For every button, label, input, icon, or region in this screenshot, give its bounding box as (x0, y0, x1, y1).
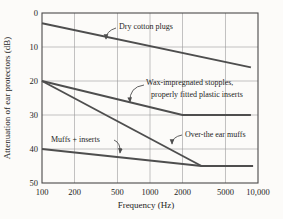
y-tick-label-20: 20 (30, 76, 39, 86)
x-tick-label-500: 500 (111, 187, 124, 197)
annotation-label-dry-cotton-plugs: Dry cotton plugs (119, 22, 173, 31)
x-tick-label-200: 200 (68, 187, 81, 197)
attenuation-vs-frequency-chart: 10020050010002000500010,00001020304050Fr… (0, 0, 283, 219)
x-tick-label-100: 100 (36, 187, 49, 197)
x-axis-title: Frequency (Hz) (118, 200, 175, 210)
y-tick-label-30: 30 (30, 110, 39, 120)
y-tick-label-0: 0 (34, 8, 38, 18)
annotation-label-wax-impregnated-stopples: properly fitted plastic inserts (151, 90, 243, 99)
x-tick-label-1000: 1000 (142, 187, 159, 197)
y-tick-label-10: 10 (30, 42, 39, 52)
x-tick-label-5000: 5000 (217, 187, 234, 197)
annotation-label-over-the-ear-muffs: Over-the ear muffs (185, 130, 246, 139)
annotation-label-wax-impregnated-stopples: Wax-impregnated stopples, (146, 78, 233, 87)
y-tick-label-50: 50 (30, 178, 39, 188)
y-axis-title: Attenuation of ear protectors (dB) (2, 37, 12, 159)
x-tick-label-2000: 2000 (174, 187, 191, 197)
figure-ear-protector-attenuation: 10020050010002000500010,00001020304050Fr… (0, 0, 283, 219)
x-tick-label-10000: 10,000 (246, 187, 269, 197)
y-tick-label-40: 40 (30, 144, 39, 154)
annotation-label-muffs-plus-inserts: Muffs + inserts (51, 135, 100, 144)
